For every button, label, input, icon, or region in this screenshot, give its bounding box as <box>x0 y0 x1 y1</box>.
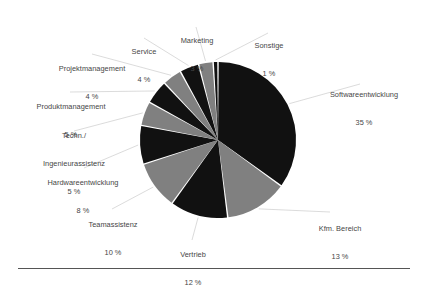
slice-label-value: 12 % <box>155 278 231 287</box>
slice-label-value: 35 % <box>308 118 420 127</box>
slice-label-value: 5 % <box>18 187 130 196</box>
slice-label-name: Vertrieb <box>155 250 231 259</box>
slice-label-name: Marketing <box>164 36 230 45</box>
slice-label-name-line2: Ingenieurassistenz <box>18 159 130 168</box>
slice-label-sonstige: Sonstige 1 % <box>238 23 300 97</box>
slice-label-value: 1 % <box>238 69 300 78</box>
slice-label-vertrieb: Vertrieb 12 % <box>155 232 231 289</box>
slice-label-value: 5 % <box>12 130 130 139</box>
slice-label-name: Kfm. Bereich <box>295 224 385 233</box>
footer-divider-rule <box>18 268 410 269</box>
slice-label-value: 3 % <box>164 64 230 73</box>
slice-label-softwareentwicklung: Softwareentwicklung 35 % <box>308 72 420 146</box>
slice-label-marketing: Marketing 3 % <box>164 18 230 92</box>
slice-label-name: Sonstige <box>238 41 300 50</box>
slice-label-name: Softwareentwicklung <box>308 90 420 99</box>
slice-label-value: 13 % <box>295 252 385 261</box>
slice-label-value: 10 % <box>66 248 160 257</box>
